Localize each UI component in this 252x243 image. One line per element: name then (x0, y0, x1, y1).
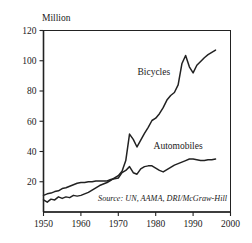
x-tick-label: 1990 (184, 219, 203, 229)
y-axis-unit-label: Million (42, 13, 71, 23)
y-tick-label: 80 (27, 86, 37, 96)
x-tick-label: 1980 (146, 219, 165, 229)
y-tick-label: 60 (27, 117, 37, 127)
x-tick-label: 1960 (71, 219, 90, 229)
series-label-bicycles: Bicycles (137, 67, 170, 77)
y-tick-label: 100 (22, 56, 37, 66)
y-tick-label: 120 (22, 26, 37, 36)
figure-background (0, 0, 252, 243)
x-tick-label: 1950 (34, 219, 53, 229)
y-tick-label: 40 (27, 147, 37, 157)
y-tick-label: 20 (27, 177, 37, 187)
x-tick-label: 1970 (109, 219, 128, 229)
series-label-automobiles: Automobiles (154, 141, 203, 151)
source-note: Source: UN, AAMA, DRI/McGraw-Hill (98, 194, 228, 203)
chart-figure: Million 20406080100120 19501960197019801… (0, 0, 252, 243)
x-tick-label: 2000 (221, 219, 240, 229)
chart-canvas: Million 20406080100120 19501960197019801… (0, 0, 252, 243)
